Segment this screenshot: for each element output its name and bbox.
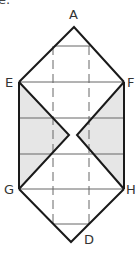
vertex-label-g: G	[4, 182, 14, 197]
shaded-region-left	[19, 82, 69, 189]
vertex-label-h: H	[126, 182, 136, 197]
vertex-label-d: D	[84, 232, 94, 247]
vertex-label-f: F	[127, 75, 134, 90]
vertex-label-a: A	[69, 7, 78, 22]
geometric-construction-diagram: A E F G H D	[0, 0, 139, 253]
shaded-region-right	[77, 82, 124, 189]
vertex-label-e: E	[5, 75, 13, 90]
